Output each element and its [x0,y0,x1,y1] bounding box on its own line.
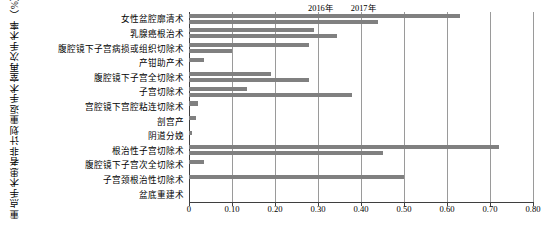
legend-swatch-2017 [343,4,349,10]
category-label: 乳腺癌根治术 [28,29,184,39]
bar-2016年[interactable] [189,131,192,135]
legend-swatch-2016 [300,4,306,10]
x-axis-tick-labels: 00.100.200.300.400.500.600.700.80 [189,204,549,218]
bar-2017年[interactable] [189,78,309,82]
bar-2016年[interactable] [189,175,404,179]
y-axis-title-text: 重点手术患者非计划重返手术室再次手术率（%） [8,0,22,218]
bar-group [189,144,534,159]
bar-group [189,187,534,202]
category-label: 剖宫产 [28,117,184,127]
bar-2016年[interactable] [189,14,460,18]
category-label: 产钳助产术 [28,58,184,68]
x-axis-tick-label: 0.30 [310,204,325,214]
category-label: 宫腔镜下宫腔粘连切除术 [28,102,184,112]
bar-2017年[interactable] [189,34,337,38]
bar-2016年[interactable] [189,87,247,91]
y-axis-category-labels: 女性盆腔廓清术乳腺癌根治术腹腔镜下子宫病损或组织切除术产钳助产术腹腔镜下子宫全切… [28,12,186,202]
x-axis-tick-label: 0 [187,204,191,214]
bar-2016年[interactable] [189,58,204,62]
y-axis-title: 重点手术患者非计划重返手术室再次手术率（%） [0,0,30,208]
plot-area [189,12,534,202]
x-axis-tick-label: 0.80 [525,204,540,214]
x-axis-tick-label: 0.10 [224,204,239,214]
bar-group [189,56,534,71]
bar-2017年[interactable] [189,20,378,24]
category-label: 阴道分娩 [28,131,184,141]
bar-group [189,114,534,129]
category-label: 子宫颈根治性切除术 [28,175,184,185]
bar-2016年[interactable] [189,28,314,32]
x-axis-tick-label: 0.50 [396,204,411,214]
category-label: 盆底重建术 [28,190,184,200]
bar-2017年[interactable] [189,151,383,155]
bar-2016年[interactable] [189,101,198,105]
x-axis-tick-label: 0.60 [439,204,454,214]
bar-2016年[interactable] [189,160,204,164]
category-label: 子宫切除术 [28,87,184,97]
chart-container: 重点手术患者非计划重返手术室再次手术率（%） 2016年 2017年 女性盆腔廓… [0,0,557,231]
bar-group [189,27,534,42]
bar-group [189,158,534,173]
bar-group [189,85,534,100]
bar-group [189,70,534,85]
bar-2016年[interactable] [189,43,309,47]
x-axis-tick-label: 0.20 [267,204,282,214]
bar-2016年[interactable] [189,72,271,76]
bar-group [189,12,534,27]
category-label: 腹腔镜下子宫病损或组织切除术 [28,44,184,54]
category-label: 女性盆腔廓清术 [28,14,184,24]
category-label: 腹腔镜下子宫全切除术 [28,73,184,83]
bar-2017年[interactable] [189,49,232,53]
category-label: 根治性子宫切除术 [28,146,184,156]
bar-group [189,129,534,144]
bar-2016年[interactable] [189,116,196,120]
bar-group [189,41,534,56]
category-label: 腹腔镜下子宫次全切除术 [28,160,184,170]
bar-group [189,173,534,188]
x-axis-tick-label: 0.40 [353,204,368,214]
bar-group [189,100,534,115]
x-axis-tick-label: 0.70 [482,204,497,214]
bar-2017年[interactable] [189,93,352,97]
bar-2016年[interactable] [189,145,499,149]
